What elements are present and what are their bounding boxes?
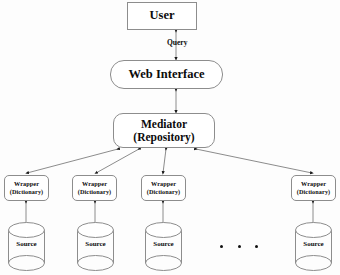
node-wrapper-4-label-line1: Wrapper — [301, 181, 326, 188]
node-source-4-label: Source — [294, 240, 333, 248]
node-wrapper-2-label-line1: Wrapper — [82, 181, 107, 188]
edge-mediator-wrapper-3 — [163, 149, 166, 173]
ellipsis-dot — [255, 245, 258, 248]
node-wrapper-4: Wrapper (Dictionary) — [291, 175, 336, 201]
node-wrapper-3-label-line1: Wrapper — [151, 181, 176, 188]
node-wrapper-1-label-line1: Wrapper — [14, 181, 39, 188]
node-wrapper-1-label-line2: (Dictionary) — [10, 189, 44, 196]
node-source-4: Source — [294, 221, 333, 272]
ellipsis-more-sources — [220, 242, 258, 250]
node-user: User — [127, 2, 197, 30]
node-source-2-label: Source — [76, 240, 115, 248]
node-wrapper-1: Wrapper (Dictionary) — [4, 175, 49, 201]
ellipsis-dot — [238, 245, 241, 248]
node-source-2: Source — [76, 221, 115, 272]
node-wrapper-2: Wrapper (Dictionary) — [72, 175, 117, 201]
diagram-canvas: User Query Web Interface Mediator (Repos… — [0, 0, 340, 275]
node-wrapper-3-label-line2: (Dictionary) — [147, 189, 181, 196]
node-wrapper-2-label-line2: (Dictionary) — [78, 189, 112, 196]
edge-mediator-wrapper-2 — [96, 149, 139, 173]
node-user-label: User — [150, 9, 175, 22]
node-web-interface: Web Interface — [110, 60, 223, 89]
node-mediator-label-line1: Mediator — [141, 118, 187, 130]
node-mediator: Mediator (Repository) — [113, 113, 215, 148]
node-wrapper-3: Wrapper (Dictionary) — [141, 175, 186, 201]
node-source-1: Source — [7, 221, 46, 272]
ellipsis-dot — [220, 245, 223, 248]
node-source-1-label: Source — [7, 240, 46, 248]
edge-mediator-wrapper-1 — [27, 149, 118, 173]
edge-label-query: Query — [167, 38, 187, 47]
node-mediator-label-line2: (Repository) — [133, 131, 194, 143]
edge-mediator-wrapper-4 — [196, 149, 312, 173]
node-source-3: Source — [144, 221, 183, 272]
node-wrapper-4-label-line2: (Dictionary) — [297, 189, 331, 196]
node-source-3-label: Source — [144, 240, 183, 248]
node-web-interface-label: Web Interface — [128, 68, 204, 81]
